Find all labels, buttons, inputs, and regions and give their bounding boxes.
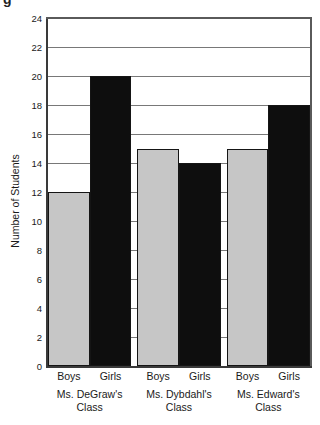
y-axis-line	[46, 17, 48, 368]
bar-girls	[90, 76, 132, 366]
plot-frame-top	[46, 17, 311, 19]
x-category-label: Girls	[179, 370, 221, 383]
y-tick-label: 2	[0, 332, 42, 343]
y-tick-label: 4	[0, 303, 42, 314]
x-category-label: Boys	[227, 370, 269, 383]
y-tick-label: 10	[0, 216, 42, 227]
bar-chart: Number of Students 024681012141618202224…	[0, 0, 320, 425]
gridline	[48, 47, 310, 48]
bar-girls	[268, 105, 310, 366]
plot-frame-right	[310, 17, 312, 368]
y-tick-label: 22	[0, 42, 42, 53]
bar-girls	[179, 163, 221, 366]
x-category-label: Boys	[48, 370, 90, 383]
x-axis-line	[46, 366, 312, 368]
gridline	[48, 76, 310, 77]
bar-boys	[48, 192, 90, 366]
bar-boys	[227, 149, 269, 367]
group-label: Ms. Edward's Class	[227, 388, 310, 413]
y-tick-label: 0	[0, 361, 42, 372]
y-tick-label: 18	[0, 100, 42, 111]
y-tick-label: 16	[0, 129, 42, 140]
y-tick-label: 14	[0, 158, 42, 169]
bar-boys	[137, 149, 179, 367]
y-tick-label: 6	[0, 274, 42, 285]
y-tick-label: 24	[0, 13, 42, 24]
group-label: Ms. Dybdahl's Class	[137, 388, 220, 413]
x-category-label: Boys	[137, 370, 179, 383]
x-category-label: Girls	[90, 370, 132, 383]
group-label: Ms. DeGraw's Class	[48, 388, 131, 413]
y-tick-label: 20	[0, 71, 42, 82]
x-category-label: Girls	[268, 370, 310, 383]
figure: g Number of Students 0246810121416182022…	[0, 0, 320, 425]
y-tick-label: 8	[0, 245, 42, 256]
y-tick-label: 12	[0, 187, 42, 198]
